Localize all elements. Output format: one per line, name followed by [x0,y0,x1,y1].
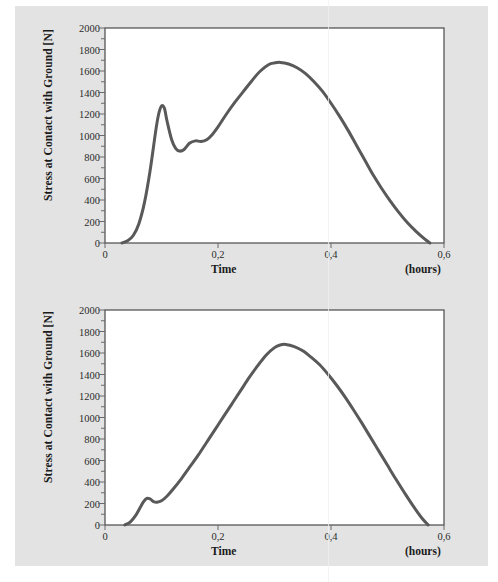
scan-artifact-line [328,0,329,582]
plot-area-1 [15,6,488,286]
plot-area-2 [15,288,488,568]
figure-page: Stress at Contact with Ground [N] Time (… [0,0,498,582]
stress-at-contact-figure-1: Stress at Contact with Ground [N] Time (… [15,6,488,286]
plot-frame [105,310,444,525]
stress-at-contact-figure-2: Stress at Contact with Ground [N] Time (… [15,288,488,568]
scanned-page-panel: Stress at Contact with Ground [N] Time (… [15,6,488,566]
